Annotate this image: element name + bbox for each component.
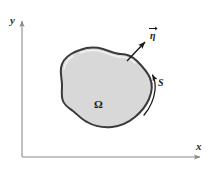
normal-vector-group xyxy=(127,42,145,61)
normal-vector-arrow xyxy=(127,42,145,61)
x-axis-label: x xyxy=(195,140,202,152)
normal-vector-label-group: η xyxy=(149,26,158,41)
surface-label: S xyxy=(158,77,164,88)
normal-vector-label: η xyxy=(150,30,156,41)
y-axis-label: y xyxy=(8,14,15,26)
region-omega-shape xyxy=(61,48,152,128)
vector-accent-arrowhead-icon xyxy=(155,26,157,30)
figure-canvas: y x Ω η S xyxy=(0,0,219,173)
domain-boundary-diagram: y x Ω η S xyxy=(0,0,219,173)
region-omega-label: Ω xyxy=(94,98,103,110)
region-omega-fill xyxy=(61,48,152,128)
